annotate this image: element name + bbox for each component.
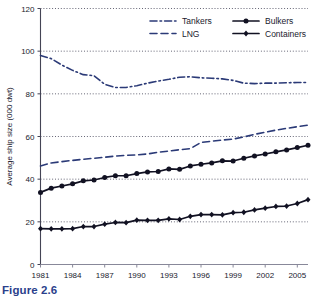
- y-tick-label: 60: [26, 133, 35, 142]
- data-point: [199, 162, 204, 167]
- y-tick-label: 40: [26, 175, 35, 184]
- x-tick-label: 1999: [224, 271, 242, 280]
- data-point: [102, 175, 107, 180]
- data-point: [241, 209, 246, 215]
- data-point: [113, 173, 118, 178]
- data-point: [92, 178, 97, 183]
- x-tick-label: 2005: [288, 271, 306, 280]
- legend-label: LNG: [182, 29, 199, 39]
- data-point: [49, 226, 54, 232]
- legend-label: Containers: [265, 29, 306, 39]
- data-point: [295, 201, 300, 207]
- data-point: [38, 190, 43, 195]
- y-tick-label: 100: [21, 47, 35, 56]
- legend-item-containers: Containers: [233, 29, 306, 39]
- data-point: [102, 221, 107, 227]
- data-point: [81, 224, 86, 230]
- data-point: [177, 217, 182, 223]
- data-point: [209, 160, 214, 165]
- data-point: [263, 205, 268, 211]
- data-point: [145, 169, 150, 174]
- data-point: [145, 217, 150, 223]
- y-tick-label: 120: [21, 5, 35, 14]
- series-line: [41, 55, 309, 87]
- data-point: [188, 213, 193, 219]
- legend-item-lng: LNG: [150, 29, 199, 39]
- data-point: [199, 212, 204, 218]
- data-point: [59, 183, 64, 188]
- y-tick-label: 20: [26, 218, 35, 227]
- data-point: [134, 171, 139, 176]
- data-point: [273, 149, 278, 154]
- legend-item-bulkers: Bulkers: [233, 16, 293, 26]
- data-point: [231, 210, 236, 216]
- legend-item-tankers: Tankers: [150, 16, 212, 26]
- grid-lines: [41, 9, 309, 265]
- y-tick-label: 0: [30, 261, 35, 270]
- x-tick-label: 1984: [64, 271, 82, 280]
- data-point: [241, 156, 246, 161]
- data-point: [284, 203, 289, 209]
- data-point: [263, 151, 268, 156]
- data-point: [166, 216, 171, 222]
- figure-caption: Figure 2.6: [2, 284, 57, 296]
- x-tick-label: 2002: [256, 271, 274, 280]
- y-axis-title: Average ship size (000 dwt): [5, 87, 14, 186]
- data-point: [49, 186, 54, 191]
- x-tick-label: 1996: [192, 271, 210, 280]
- legend-label: Tankers: [182, 16, 212, 26]
- data-point: [244, 31, 249, 37]
- data-point: [220, 212, 225, 218]
- data-point: [81, 178, 86, 183]
- x-tick-label: 1987: [96, 271, 114, 280]
- legend-label: Bulkers: [265, 16, 293, 26]
- series-line: [41, 200, 309, 229]
- data-point: [124, 173, 129, 178]
- data-point: [188, 163, 193, 168]
- data-point: [209, 212, 214, 218]
- y-tick-labels: 020406080100120: [21, 5, 35, 270]
- data-point: [231, 159, 236, 164]
- data-series: [38, 55, 311, 231]
- data-point: [59, 226, 64, 232]
- series-containers: [38, 197, 311, 232]
- axes: [38, 9, 309, 268]
- series-line: [41, 125, 309, 166]
- data-point: [306, 197, 311, 203]
- data-point: [252, 153, 257, 158]
- data-point: [244, 19, 249, 24]
- x-tick-label: 1990: [128, 271, 146, 280]
- x-tick-label: 1981: [32, 271, 50, 280]
- data-point: [295, 145, 300, 150]
- data-point: [134, 217, 139, 223]
- data-point: [38, 226, 43, 232]
- y-tick-label: 80: [26, 90, 35, 99]
- data-point: [113, 220, 118, 226]
- data-point: [166, 166, 171, 171]
- data-point: [220, 158, 225, 163]
- data-point: [156, 169, 161, 174]
- data-point: [284, 147, 289, 152]
- x-tick-labels: 198119841987199019931996199920022005: [32, 271, 307, 280]
- series-tankers: [41, 55, 309, 87]
- data-point: [70, 226, 75, 232]
- series-lng: [41, 125, 309, 166]
- data-point: [273, 204, 278, 210]
- y-axis-label: Average ship size (000 dwt): [5, 87, 14, 186]
- data-point: [70, 181, 75, 186]
- data-point: [252, 207, 257, 213]
- data-point: [92, 224, 97, 230]
- series-line: [41, 145, 309, 192]
- data-point: [156, 217, 161, 223]
- data-point: [177, 167, 182, 172]
- data-point: [124, 220, 129, 226]
- chart-legend: TankersBulkersLNGContainers: [150, 16, 306, 39]
- data-point: [306, 143, 311, 148]
- x-tick-label: 1993: [160, 271, 178, 280]
